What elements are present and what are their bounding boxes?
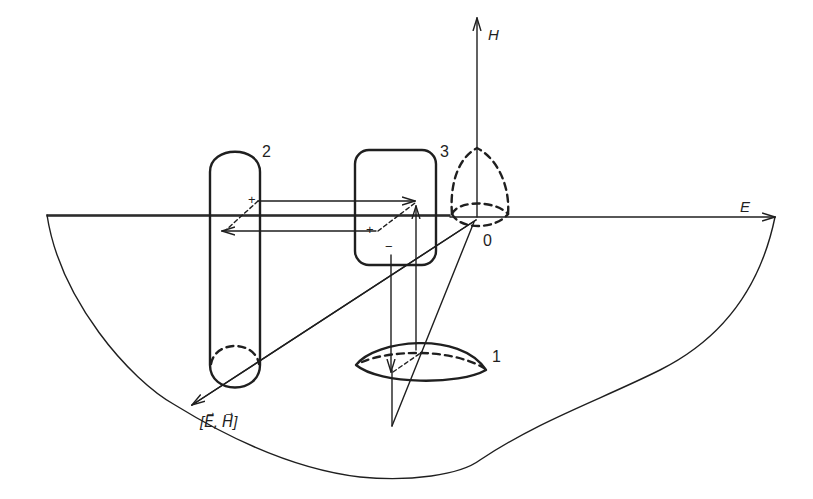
object-2-cylinder: 2: [210, 143, 271, 388]
charge-minus-3: −: [385, 239, 393, 254]
object-1-lens: 1: [356, 343, 501, 381]
object-3-label: 3: [440, 143, 449, 160]
object-2-label: 2: [262, 143, 271, 160]
em-field-diagram: E H 0 [E⃗, H⃗] 2 3: [0, 0, 813, 499]
e-axis-label: E: [740, 198, 751, 215]
charge-plus-3: +: [366, 222, 374, 237]
charge-transfer-arrows: + + −: [222, 192, 416, 372]
lens-projection-lines: [392, 222, 474, 426]
poynting-vector-overlay: [192, 220, 476, 405]
poynting-vector-label: [E⃗, H⃗]: [199, 412, 238, 430]
origin-radiation-pattern: 0: [452, 148, 509, 249]
origin-label: 0: [483, 232, 492, 249]
object-1-label: 1: [492, 348, 501, 365]
h-axis: H: [477, 18, 499, 217]
h-axis-label: H: [488, 26, 499, 43]
poynting-vector: [E⃗, H⃗]: [192, 220, 476, 430]
charge-plus-2: +: [248, 192, 256, 207]
surface-outline: [47, 215, 775, 479]
